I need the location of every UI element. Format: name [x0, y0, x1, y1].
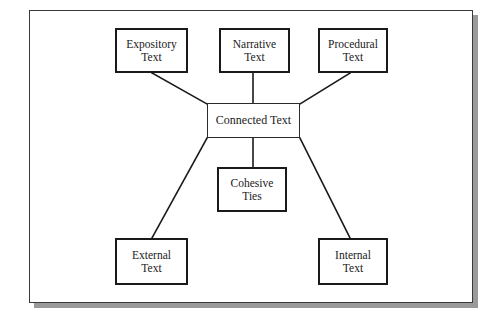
node-label-cohesive-ties: Cohesive Ties: [229, 177, 276, 203]
node-label-narrative-text: Narrative Text: [231, 38, 278, 64]
node-procedural-text[interactable]: Procedural Text: [318, 28, 388, 73]
node-internal-text[interactable]: Internal Text: [318, 238, 388, 285]
node-label-external-text: External Text: [130, 249, 173, 275]
node-external-text[interactable]: External Text: [115, 238, 188, 285]
node-label-expository-text: Expository Text: [124, 38, 178, 64]
node-expository-text[interactable]: Expository Text: [115, 28, 188, 73]
node-connected-text[interactable]: Connected Text: [207, 103, 300, 138]
node-narrative-text[interactable]: Narrative Text: [219, 28, 290, 73]
diagram-screenshot: Expository TextNarrative TextProcedural …: [0, 0, 502, 320]
node-label-internal-text: Internal Text: [333, 249, 373, 275]
node-label-procedural-text: Procedural Text: [326, 38, 380, 64]
node-cohesive-ties[interactable]: Cohesive Ties: [217, 167, 287, 212]
node-label-connected-text: Connected Text: [214, 114, 293, 127]
